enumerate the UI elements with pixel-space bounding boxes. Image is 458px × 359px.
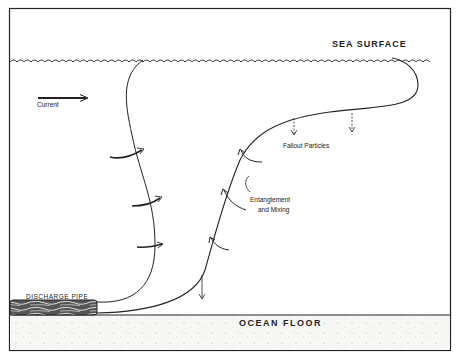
entrainment-arrow-icon	[137, 242, 163, 248]
sea-surface-label: SEA SURFACE	[332, 39, 407, 49]
ocean-floor-sediment	[10, 315, 450, 350]
current-label: Current	[37, 101, 59, 108]
entanglement-pointer	[246, 176, 250, 192]
entrainment-arrow-icon	[132, 196, 162, 206]
ocean-floor-label: OCEAN FLOOR	[239, 318, 322, 328]
fallout-arrow-icon	[349, 113, 355, 132]
discharge-plume-diagram	[0, 0, 458, 359]
sea-surface-waves	[10, 60, 430, 62]
fallout-arrow-icon	[199, 275, 205, 299]
fallout-arrow-icon	[291, 118, 297, 135]
plume-boundary-right	[97, 58, 418, 313]
entrainment-arrow-icon	[238, 149, 262, 162]
entrainment-arrow-icon	[110, 148, 144, 158]
plume-boundary-left	[97, 60, 155, 302]
entanglement-label-line2: and Mixing	[258, 206, 289, 213]
entrainment-arrow-icon	[221, 189, 246, 210]
discharge-pipe-label: DISCHARGE PIPE	[26, 293, 88, 300]
entanglement-label-line1: Entanglement	[250, 196, 290, 203]
fallout-particles-label: Fallout Particles	[283, 142, 329, 149]
discharge-pipe	[10, 300, 97, 315]
